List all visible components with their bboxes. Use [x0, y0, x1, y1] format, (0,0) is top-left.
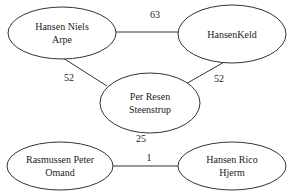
node-label-line1: Hansen Niels	[35, 20, 89, 33]
node-label-line1: Per Resen	[129, 90, 171, 103]
edge-weight-n2-n3: 52	[214, 73, 224, 84]
node-label-line2: Steenstrup	[129, 103, 171, 116]
relationship-diagram: Hansen Niels Arpe HansenKeld Per Resen S…	[0, 0, 291, 194]
node-label-line1: Rasmussen Peter	[26, 153, 94, 166]
node-label-line1: HansenKeld	[207, 28, 256, 41]
node-label-line1: Hansen Rico	[206, 153, 257, 166]
edge-weight-n4-n5: 1	[147, 152, 152, 163]
node-weight-per-resen: 25	[136, 133, 146, 144]
node-label-per-resen-steenstrup: Per Resen Steenstrup	[129, 90, 171, 116]
edge-weight-n1-n2: 63	[150, 9, 160, 20]
node-label-line2: Omand	[26, 166, 94, 179]
node-label-hansen-rico-hjerm: Hansen Rico Hjerm	[206, 153, 257, 179]
node-label-line2: Hjerm	[206, 166, 257, 179]
node-label-line2: Arpe	[35, 33, 89, 46]
node-label-hansenkeld: HansenKeld	[207, 28, 256, 41]
node-label-rasmussen-peter-omand: Rasmussen Peter Omand	[26, 153, 94, 179]
edge-weight-n1-n3: 52	[64, 72, 74, 83]
node-label-hansen-niels-arpe: Hansen Niels Arpe	[35, 20, 89, 46]
